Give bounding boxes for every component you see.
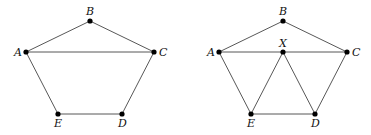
vertex-B [280,18,285,23]
edge-XD [283,52,315,114]
vertex-label-B: B [278,5,287,18]
vertex-label-X: X [278,37,288,50]
vertex-D [312,111,317,116]
vertex-X [280,49,285,54]
vertex-label-C: C [352,46,361,59]
vertex-label-C: C [159,46,168,59]
vertex-E [248,111,253,116]
edge-DC [122,52,154,114]
vertex-label-A: A [13,46,22,59]
vertex-E [55,111,60,116]
vertex-A [216,49,221,54]
diagram-canvas: ABCDE ABCXDE [0,0,371,135]
vertex-D [119,111,124,116]
pentagon-left: ABCDE [13,5,168,130]
edge-AB [26,21,90,52]
edge-BC [90,21,154,52]
vertex-label-D: D [310,117,320,130]
edge-AE [219,52,251,114]
edge-AB [219,21,283,52]
vertex-label-A: A [206,46,215,59]
edge-AE [26,52,58,114]
vertex-label-E: E [246,117,255,130]
vertex-label-B: B [85,5,94,18]
vertex-label-D: D [117,117,127,130]
pentagon-right: ABCXDE [206,5,361,130]
edge-DC [315,52,347,114]
vertex-C [151,49,156,54]
edge-XE [251,52,283,114]
vertex-label-E: E [53,117,62,130]
edge-BC [283,21,347,52]
vertex-B [87,18,92,23]
vertex-A [23,49,28,54]
vertex-C [344,49,349,54]
